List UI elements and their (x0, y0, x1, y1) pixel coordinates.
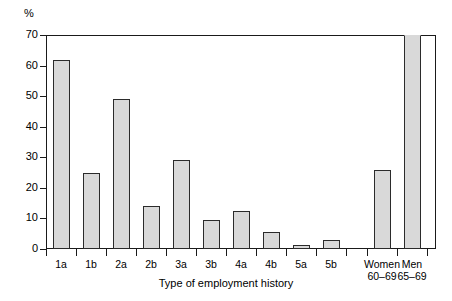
y-axis-tick-label: 40 (0, 121, 38, 132)
y-axis-tick-label: 60 (0, 60, 38, 71)
x-axis-tick-label-line1: 5b (325, 258, 337, 270)
x-axis-tick-label-line1: 3b (205, 258, 217, 270)
y-axis-unit-label: % (24, 8, 34, 19)
bar (293, 245, 310, 249)
x-axis-tick (106, 249, 107, 256)
x-axis-tick (397, 249, 398, 256)
x-axis-tick-label: 3a (175, 258, 187, 270)
y-axis-tick (40, 96, 47, 97)
bar (83, 173, 100, 249)
x-axis-tick-label: 2b (145, 258, 157, 270)
bar-chart: % 010203040506070 1a1b2a2b3a3b4a4b5a5bWo… (0, 0, 452, 301)
bar (203, 220, 220, 249)
bar (323, 240, 340, 249)
x-axis-tick-label-line1: 2b (145, 258, 157, 270)
x-axis-tick-label: 4b (265, 258, 277, 270)
x-axis-tick-label: 5a (295, 258, 307, 270)
x-axis-tick-label-line1: 1a (55, 258, 67, 270)
y-axis-tick (40, 35, 47, 36)
y-axis-tick (40, 127, 47, 128)
x-axis-tick-label: 4a (235, 258, 247, 270)
x-axis-tick-label-line1: 5a (295, 258, 307, 270)
y-axis-tick-label: 10 (0, 212, 38, 223)
bar (143, 206, 160, 249)
x-axis-tick (256, 249, 257, 256)
x-axis-tick-label-line1: 4b (265, 258, 277, 270)
x-axis-tick (196, 249, 197, 256)
bar (374, 170, 391, 250)
y-axis-tick (40, 188, 47, 189)
x-axis-tick-label: 1b (85, 258, 97, 270)
x-axis-tick-label: 1a (55, 258, 67, 270)
x-axis-tick-label: 2a (115, 258, 127, 270)
x-axis-tick-label-line1: Women (364, 258, 400, 270)
bar (263, 232, 280, 249)
bar (53, 60, 70, 250)
x-axis-tick-label-line1: Men (402, 258, 422, 270)
x-axis-tick (136, 249, 137, 256)
y-axis-tick-label: 70 (0, 29, 38, 40)
x-axis-title: Type of employment history (0, 277, 452, 289)
x-axis-tick (166, 249, 167, 256)
x-axis-tick-label: 5b (325, 258, 337, 270)
x-axis-tick (427, 249, 428, 256)
x-axis-tick (226, 249, 227, 256)
x-axis-tick (346, 249, 347, 256)
bar (113, 99, 130, 249)
y-axis-tick (40, 66, 47, 67)
y-axis-tick-label: 20 (0, 182, 38, 193)
bar (233, 211, 250, 249)
y-axis-tick-label: 30 (0, 151, 38, 162)
x-axis-tick (367, 249, 368, 256)
y-axis-tick-label: 50 (0, 90, 38, 101)
bar (173, 160, 190, 249)
x-axis-tick-label-line1: 2a (115, 258, 127, 270)
x-axis-tick (316, 249, 317, 256)
y-axis-tick-label: 0 (0, 243, 38, 254)
bar (404, 35, 421, 249)
x-axis-tick-label-line1: 1b (85, 258, 97, 270)
x-axis-tick-label-line1: 3a (175, 258, 187, 270)
x-axis-tick (76, 249, 77, 256)
x-axis-tick (46, 249, 47, 256)
x-axis-tick-label: 3b (205, 258, 217, 270)
y-axis-tick (40, 157, 47, 158)
x-axis-tick (286, 249, 287, 256)
y-axis-tick (40, 218, 47, 219)
x-axis-tick-label-line1: 4a (235, 258, 247, 270)
